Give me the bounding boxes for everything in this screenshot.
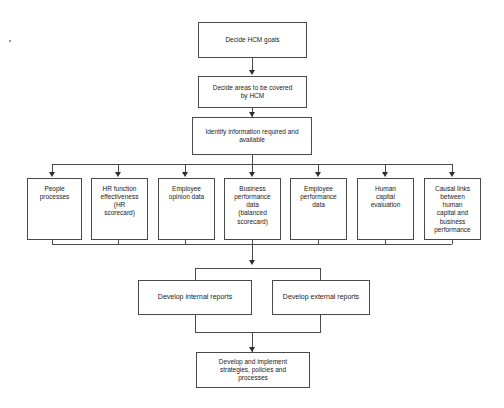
node-label: Decide HCM goals — [201, 36, 304, 44]
arrowhead-human-capital-evaluation — [382, 172, 388, 177]
node-label: Causal links between human capital and b… — [427, 185, 478, 234]
node-causal-links: Causal links between human capital and b… — [424, 178, 481, 240]
arrowhead-collector-to-reports — [249, 260, 255, 265]
node-label: Human capital evaluation — [360, 185, 411, 209]
node-label: Business performance data (balanced scor… — [227, 185, 278, 226]
riser-develop-internal-reports — [195, 315, 196, 332]
arrowhead-employee-performance-data — [315, 172, 321, 177]
node-people-processes: People processes — [27, 178, 82, 240]
node-develop-implement-strategies: Develop and implement strategies, polici… — [196, 352, 310, 388]
arrowhead-people-processes — [49, 172, 55, 177]
scan-speck — [9, 40, 11, 42]
node-develop-internal-reports: Develop internal reports — [138, 280, 252, 315]
connector-identify-to-bus — [252, 155, 253, 164]
node-develop-external-reports: Develop external reports — [272, 280, 370, 315]
flowchart-canvas: Decide HCM goals Decide areas to be cove… — [0, 0, 504, 408]
node-label: HR function effectiveness (HR scorecard) — [94, 185, 145, 218]
node-label: Identify information required and availa… — [195, 128, 309, 144]
node-label: People processes — [30, 185, 79, 201]
drop-develop-internal-reports — [195, 268, 196, 280]
node-label: Develop internal reports — [141, 293, 249, 302]
reports-merge-bus — [195, 332, 321, 333]
reports-split-bus — [195, 268, 321, 269]
node-label: Employee opinion data — [161, 185, 212, 201]
node-hr-function-effectiveness: HR function effectiveness (HR scorecard) — [91, 178, 148, 240]
node-label: Develop external reports — [275, 293, 367, 302]
node-employee-opinion-data: Employee opinion data — [158, 178, 215, 240]
node-label: Decide areas to be covered by HCM — [201, 84, 304, 100]
node-identify-information: Identify information required and availa… — [192, 117, 312, 155]
node-label: Employee performance data — [293, 185, 344, 209]
riser-causal-links — [452, 240, 453, 244]
riser-develop-external-reports — [320, 315, 321, 332]
node-decide-hcm-goals: Decide HCM goals — [198, 22, 307, 58]
arrowhead-causal-links — [449, 172, 455, 177]
node-business-performance-data: Business performance data (balanced scor… — [224, 178, 281, 240]
drop-develop-external-reports — [320, 268, 321, 280]
arrowhead-business-performance-data — [249, 172, 255, 177]
node-decide-areas-covered: Decide areas to be covered by HCM — [198, 76, 307, 108]
node-label: Develop and implement strategies, polici… — [199, 358, 307, 382]
arrowhead-employee-opinion-data — [182, 172, 188, 177]
arrowhead-goals-to-areas — [249, 70, 255, 75]
node-human-capital-evaluation: Human capital evaluation — [357, 178, 414, 240]
node-employee-performance-data: Employee performance data — [290, 178, 347, 240]
arrowhead-hr-function-effectiveness — [115, 172, 121, 177]
